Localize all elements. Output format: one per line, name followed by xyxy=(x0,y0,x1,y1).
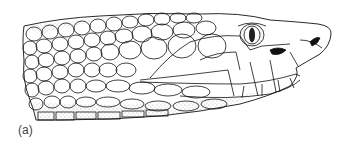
snake-head-drawing xyxy=(0,0,349,142)
snake-head-figure: (a) xyxy=(0,0,349,142)
panel-label: (a) xyxy=(18,123,33,137)
